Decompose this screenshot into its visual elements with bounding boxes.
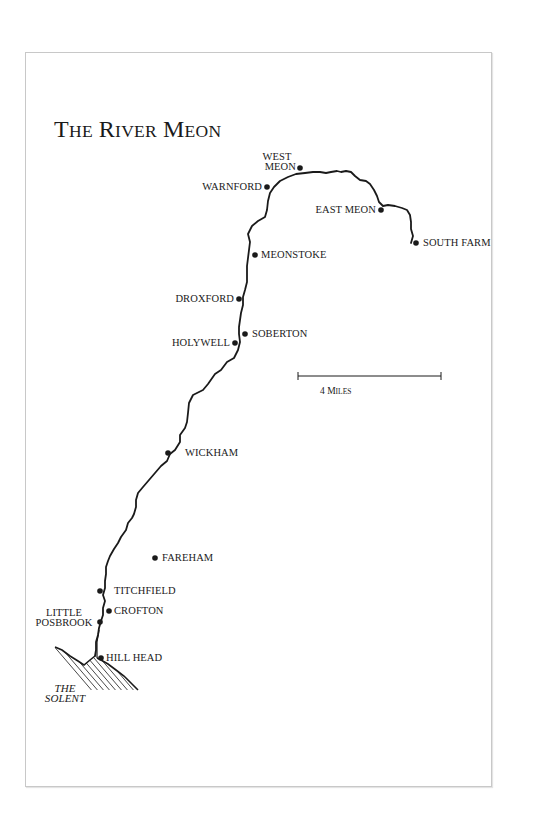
scale-label: 4 MILES bbox=[320, 386, 351, 396]
marker-hill-head bbox=[98, 655, 104, 661]
label-west-meon: WEST MEON bbox=[258, 152, 296, 172]
marker-wickham bbox=[165, 450, 171, 456]
river-meon bbox=[95, 171, 413, 656]
label-south-farm: SOUTH FARM bbox=[423, 238, 491, 248]
marker-crofton bbox=[106, 608, 112, 614]
marker-south-farm bbox=[413, 240, 419, 246]
label-crofton: CROFTON bbox=[114, 606, 164, 616]
label-fareham: FAREHAM bbox=[162, 553, 213, 563]
scale-bar bbox=[298, 372, 441, 380]
label-hill-head: HILL HEAD bbox=[106, 653, 162, 663]
marker-holywell bbox=[232, 340, 238, 346]
label-east-meon: EAST MEON bbox=[300, 205, 376, 215]
marker-titchfield bbox=[97, 588, 103, 594]
label-soberton: SOBERTON bbox=[252, 329, 307, 339]
map-title: THE RIVER MEON bbox=[54, 116, 221, 143]
marker-fareham bbox=[152, 555, 158, 561]
marker-warnford bbox=[264, 184, 270, 190]
label-droxford: DROXFORD bbox=[170, 294, 234, 304]
marker-little-posbrook bbox=[97, 619, 103, 625]
label-the-solent: THE SOLENT bbox=[40, 683, 90, 703]
label-warnford: WARNFORD bbox=[186, 182, 262, 192]
label-meonstoke: MEONSTOKE bbox=[261, 250, 326, 260]
marker-soberton bbox=[242, 331, 248, 337]
marker-meonstoke bbox=[252, 252, 258, 258]
label-wickham: WICKHAM bbox=[185, 448, 238, 458]
label-little-posbrook: LITTLE POSBROOK bbox=[32, 608, 96, 628]
label-holywell: HOLYWELL bbox=[160, 338, 230, 348]
marker-east-meon bbox=[378, 207, 384, 213]
label-titchfield: TITCHFIELD bbox=[114, 586, 176, 596]
marker-droxford bbox=[236, 296, 242, 302]
marker-west-meon bbox=[297, 165, 303, 171]
